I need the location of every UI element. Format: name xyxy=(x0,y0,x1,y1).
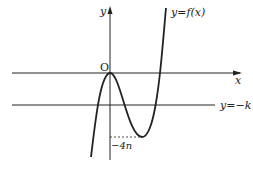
graph-canvas: y x O y=f(x) y=−k −4n xyxy=(0,0,253,171)
horizontal-line-label: y=−k xyxy=(219,99,252,112)
origin-label: O xyxy=(100,61,109,74)
x-axis-label: x xyxy=(235,74,242,87)
min-value-label: −4n xyxy=(111,140,132,151)
y-axis-arrow-icon xyxy=(108,6,113,14)
y-axis-label: y xyxy=(99,5,107,18)
cubic-curve xyxy=(91,8,166,157)
curve-label: y=f(x) xyxy=(170,6,205,19)
function-graph-diagram: y x O y=f(x) y=−k −4n xyxy=(0,0,253,171)
